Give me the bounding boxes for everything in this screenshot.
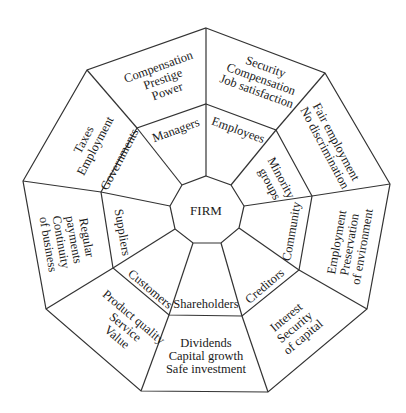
firm-label: FIRM [186,204,226,217]
shareholders-interest-3: Safe investment [151,363,261,376]
